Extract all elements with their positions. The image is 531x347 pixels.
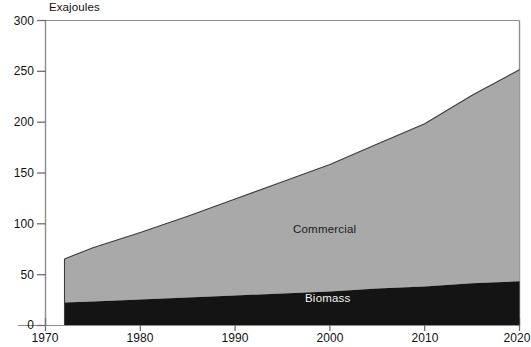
y-tick-label-100: 100 [0,218,34,230]
series-label-biomass: Biomass [305,292,351,304]
y-axis-unit-label: Exajoules [49,1,100,14]
y-tick-label-250: 250 [0,65,34,77]
y-tick-label-0: 0 [0,319,34,331]
series-area-commercial-fill [65,70,520,303]
stacked-area-plot [0,0,531,347]
x-tick-label-1990: 1990 [205,332,265,344]
x-tick-label-2020: 2020 [487,332,531,344]
x-tick-label-1970: 1970 [15,332,75,344]
y-tick-label-200: 200 [0,116,34,128]
x-tick-label-2010: 2010 [395,332,455,344]
y-tick-label-50: 50 [0,269,34,281]
y-tick-label-300: 300 [0,15,34,27]
y-axis-ticks [37,21,46,326]
chart-figure: Exajoules [0,0,531,347]
series-label-commercial: Commercial [293,223,356,235]
y-tick-label-150: 150 [0,167,34,179]
x-tick-label-2000: 2000 [300,332,360,344]
x-tick-label-1980: 1980 [110,332,170,344]
